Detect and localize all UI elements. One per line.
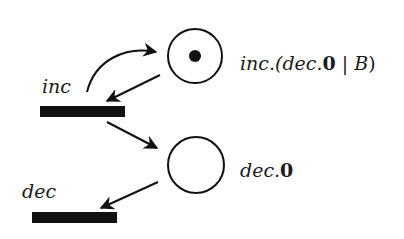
transition-dec xyxy=(32,212,117,223)
place-label-inc-dec-b: inc.(dec.0 | B) xyxy=(240,52,376,75)
transition-label-dec: dec xyxy=(22,180,56,202)
arc-place2-to-dec xyxy=(101,182,158,208)
arc-place1-to-inc xyxy=(107,75,160,101)
place-dec-0 xyxy=(168,137,224,193)
petri-net-diagram: inc.(dec.0 | B) dec.0 inc dec xyxy=(0,0,404,239)
token-icon xyxy=(189,50,201,62)
place-inc-dec-b xyxy=(168,29,222,83)
transition-label-inc: inc xyxy=(42,75,71,97)
place-label-dec-0: dec.0 xyxy=(240,159,293,181)
arc-inc-to-place2 xyxy=(107,122,157,148)
transition-inc xyxy=(40,106,125,117)
arc-inc-to-place1 xyxy=(87,51,156,92)
